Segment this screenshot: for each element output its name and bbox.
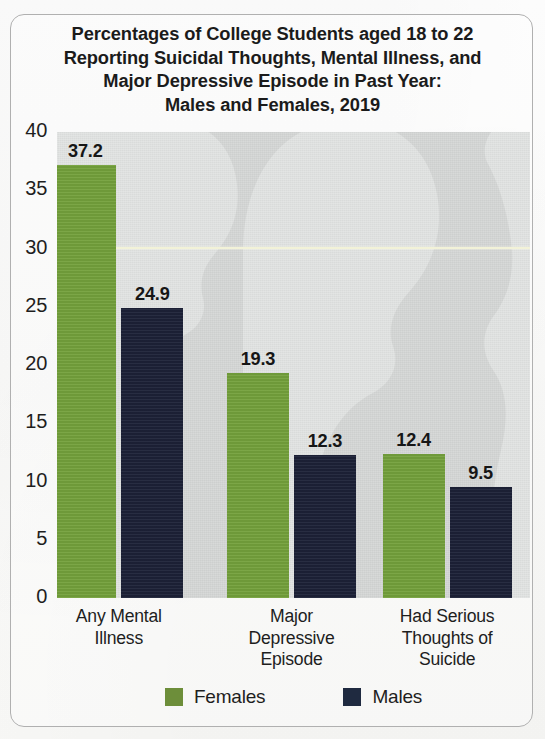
x-category-label-0-line-1: Illness (29, 628, 209, 650)
legend-item-females[interactable]: Females (165, 686, 265, 708)
x-category-label-2: Had SeriousThoughts ofSuicide (357, 606, 537, 671)
y-tick-label-15: 15 (9, 410, 47, 433)
bar-females-0 (57, 165, 116, 598)
y-tick-label-5: 5 (9, 527, 47, 550)
legend-swatch-females-icon (165, 688, 183, 706)
y-tick-label-20: 20 (9, 352, 47, 375)
bar-grain (227, 373, 289, 598)
bar-females-2 (383, 454, 445, 598)
chart-title-line-2: Reporting Suicidal Thoughts, Mental Illn… (20, 46, 525, 70)
chart-title-line-3: Major Depressive Episode in Past Year: (20, 69, 525, 93)
y-tick-label-35: 35 (9, 177, 47, 200)
chart-title-line-4: Males and Females, 2019 (20, 93, 525, 117)
x-category-label-2-line-1: Thoughts of (357, 628, 537, 650)
bar-value-label-females-0: 37.2 (48, 141, 122, 162)
bar-males-1 (294, 455, 356, 598)
x-category-label-1-line-1: Depressive (202, 628, 382, 650)
bar-value-label-females-1: 19.3 (221, 349, 295, 370)
bar-value-label-females-2: 12.4 (377, 430, 451, 451)
x-category-label-1-line-0: Major (202, 606, 382, 628)
x-category-label-2-line-2: Suicide (357, 649, 537, 671)
bar-grain (383, 454, 445, 598)
chart-title: Percentages of College Students aged 18 … (20, 22, 525, 116)
bar-value-label-males-2: 9.5 (444, 463, 518, 484)
bar-grain (57, 165, 116, 598)
bar-grain (121, 308, 183, 598)
bar-males-0 (121, 308, 183, 598)
legend-label-females: Females (194, 686, 265, 708)
chart-legend: FemalesMales (57, 686, 530, 708)
bar-value-label-males-0: 24.9 (115, 284, 189, 305)
bar-value-label-males-1: 12.3 (288, 431, 362, 452)
y-tick-label-25: 25 (9, 294, 47, 317)
x-category-label-1: MajorDepressiveEpisode (202, 606, 382, 671)
bar-females-1 (227, 373, 289, 598)
x-category-label-1-line-2: Episode (202, 649, 382, 671)
bar-grain (294, 455, 356, 598)
y-tick-label-0: 0 (9, 585, 47, 608)
legend-swatch-males-icon (343, 688, 361, 706)
x-category-label-0: Any MentalIllness (29, 606, 209, 649)
bar-grain (450, 487, 512, 598)
legend-label-males: Males (372, 686, 422, 708)
x-category-label-0-line-0: Any Mental (29, 606, 209, 628)
bar-males-2 (450, 487, 512, 598)
gridline-30 (57, 247, 530, 249)
y-tick-label-30: 30 (9, 236, 47, 259)
y-tick-label-40: 40 (9, 119, 47, 142)
y-tick-label-10: 10 (9, 469, 47, 492)
x-category-label-2-line-0: Had Serious (357, 606, 537, 628)
chart-title-line-1: Percentages of College Students aged 18 … (20, 22, 525, 46)
legend-item-males[interactable]: Males (343, 686, 422, 708)
